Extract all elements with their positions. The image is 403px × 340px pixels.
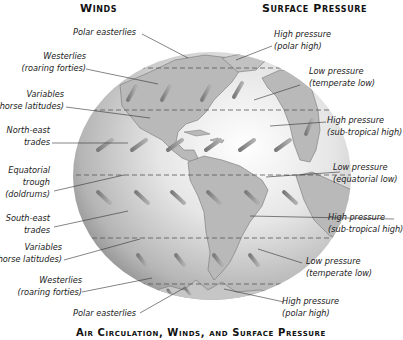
label-subtropical-high-north: High pressure (sub-tropical high) <box>327 114 402 138</box>
label-temperate-low-south: Low pressure (temperate low) <box>306 255 372 279</box>
label-temperate-low-north: Low pressure (temperate low) <box>309 65 375 89</box>
label-polar-easterlies-south: Polar easterlies <box>73 307 136 319</box>
label-equatorial-trough: Equatorial trough (doldrums) <box>5 164 50 200</box>
label-subtropical-high-south: High pressure (sub-tropical high) <box>328 211 403 235</box>
label-equatorial-low: Low pressure (equatorial low) <box>333 161 398 185</box>
label-westerlies-south: Westerlies (roaring forties) <box>18 274 82 298</box>
label-north-east-trades: North-east trades <box>7 124 50 148</box>
label-variables-south: Variables (horse latitudes) <box>0 241 62 265</box>
label-south-east-trades: South-east trades <box>6 212 50 236</box>
label-westerlies-north: Westerlies (roaring forties) <box>22 50 86 74</box>
label-polar-high-north: High pressure (polar high) <box>274 28 331 52</box>
label-polar-high-south: High pressure (polar high) <box>282 295 339 319</box>
label-polar-easterlies-north: Polar easterlies <box>73 26 136 38</box>
label-variables-north: Variables (horse latitudes) <box>0 88 64 112</box>
